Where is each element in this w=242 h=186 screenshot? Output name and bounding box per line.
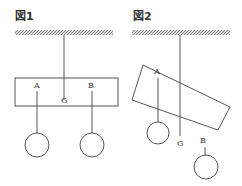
point-b-label: B (88, 81, 94, 90)
weight-b (194, 155, 218, 179)
point-a-label: A (153, 67, 160, 76)
weight-a (25, 133, 49, 157)
point-b-label: B (200, 136, 206, 145)
figure-1-title: 図1 (15, 9, 34, 23)
point-g-label: G (177, 139, 183, 148)
tilted-bar (132, 65, 230, 130)
figure-1: 図1 A G B (15, 9, 118, 157)
weight-a (147, 122, 169, 144)
figure-2-title: 図2 (133, 9, 152, 23)
point-g-label: G (61, 96, 67, 105)
weight-b (80, 133, 104, 157)
ceiling (132, 30, 230, 35)
figure-2: 図2 A G B (132, 9, 230, 179)
diagram-canvas: 図1 A G B 図2 A G B (0, 0, 242, 186)
ceiling (15, 30, 113, 35)
point-a-label: A (33, 81, 40, 90)
